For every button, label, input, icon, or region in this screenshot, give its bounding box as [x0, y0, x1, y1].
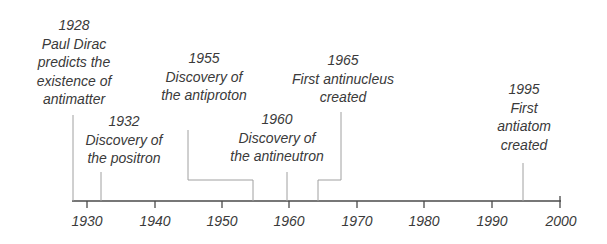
event-text-line: Paul Dirac — [37, 35, 112, 54]
event-1995: 1995 First antiatom created — [497, 80, 551, 154]
event-text-line: the antineutron — [230, 147, 323, 166]
event-text-line: Discovery of — [85, 131, 162, 150]
tick-label-1960: 1960 — [273, 213, 304, 229]
event-text-line: First antinucleus — [292, 70, 394, 89]
event-text-line: antimatter — [37, 90, 112, 109]
event-1928: 1928 Paul Dirac predicts the existence o… — [37, 16, 112, 109]
event-text-line: predicts the — [37, 53, 112, 72]
event-1965: 1965 First antinucleus created — [292, 51, 394, 107]
event-text-line: First — [497, 99, 551, 118]
tick-label-1980: 1980 — [408, 213, 439, 229]
tick-label-1950: 1950 — [206, 213, 237, 229]
event-year: 1965 — [292, 51, 394, 70]
event-text-line: Discovery of — [161, 68, 247, 87]
event-text-line: existence of — [37, 72, 112, 91]
event-text-line: antiatom — [497, 117, 551, 136]
event-text-line: the positron — [85, 149, 162, 168]
tick-label-1970: 1970 — [341, 213, 372, 229]
event-year: 1960 — [230, 110, 323, 129]
event-year: 1995 — [497, 80, 551, 99]
tick-label-1940: 1940 — [139, 213, 170, 229]
event-text-line: Discovery of — [230, 129, 323, 148]
event-1960: 1960 Discovery of the antineutron — [230, 110, 323, 166]
antimatter-timeline: 1928 Paul Dirac predicts the existence o… — [0, 0, 607, 244]
event-year: 1955 — [161, 49, 247, 68]
tick-label-1930: 1930 — [71, 213, 102, 229]
axis-ticks — [87, 196, 560, 208]
event-1955: 1955 Discovery of the antiproton — [161, 49, 247, 105]
event-year: 1932 — [85, 112, 162, 131]
event-text-line: the antiproton — [161, 86, 247, 105]
event-text-line: created — [497, 136, 551, 155]
tick-label-2000: 2000 — [545, 213, 576, 229]
event-1932: 1932 Discovery of the positron — [85, 112, 162, 168]
event-text-line: created — [292, 88, 394, 107]
tick-label-1990: 1990 — [476, 213, 507, 229]
event-year: 1928 — [37, 16, 112, 35]
